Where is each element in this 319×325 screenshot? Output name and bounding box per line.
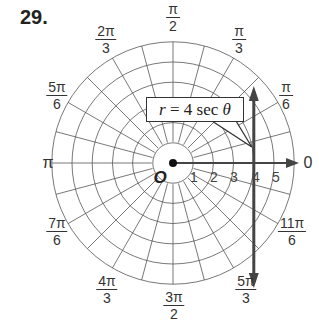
tick-label-2: 2 <box>210 169 218 185</box>
graph-arrowhead-up-icon <box>249 86 259 101</box>
angle-label-5pi-over-3: 5π 3 <box>235 274 256 306</box>
angle-label-7pi-over-6: 7π 6 <box>46 216 67 248</box>
angle-label-4pi-over-3: 4π 3 <box>96 274 117 306</box>
radial-gridline <box>188 178 259 249</box>
tick-label-4: 4 <box>252 169 260 185</box>
angle-label-3pi-over-2: 3π 2 <box>163 290 184 322</box>
callout-expression: = 4 sec <box>166 100 223 120</box>
radial-gridline <box>178 183 204 280</box>
radial-gridline <box>56 168 153 194</box>
radial-gridline <box>178 46 204 143</box>
radial-gridline <box>142 183 168 280</box>
callout-theta: θ <box>223 100 231 120</box>
angle-label-5pi-over-6: 5π 6 <box>46 80 67 112</box>
angle-label-11pi-over-6: 11π 6 <box>278 216 306 248</box>
tick-label-1: 1 <box>190 169 198 185</box>
radial-gridline <box>184 181 234 268</box>
callout-pointer <box>212 121 252 147</box>
callout-variable-r: r <box>159 100 166 120</box>
problem-number: 29. <box>20 6 48 29</box>
tick-label-5: 5 <box>272 169 280 185</box>
radial-gridline <box>68 102 155 152</box>
equation-callout: r = 4 sec θ <box>146 97 244 122</box>
angle-label-pi-over-2: π 2 <box>166 2 180 34</box>
origin-label: O <box>153 168 166 188</box>
tick-label-3: 3 <box>230 169 238 185</box>
origin-point <box>169 159 177 167</box>
angle-label-0: 0 <box>304 154 313 172</box>
polar-graph-figure: 29. π 2 2π 3 π 3 5π 6 π 6 π 0 7π 6 11π 6… <box>0 0 319 325</box>
radial-gridline <box>112 181 162 268</box>
radial-gridline <box>87 178 158 249</box>
angle-label-pi: π <box>42 154 53 172</box>
radial-gridline <box>142 46 168 143</box>
angle-label-pi-over-6: π 6 <box>279 80 293 112</box>
radial-gridline <box>56 132 153 158</box>
angle-label-2pi-over-3: 2π 3 <box>95 24 116 56</box>
angle-label-pi-over-3: π 3 <box>232 24 246 56</box>
radial-gridline <box>68 174 155 224</box>
polar-axis-arrowhead-icon <box>286 158 299 168</box>
